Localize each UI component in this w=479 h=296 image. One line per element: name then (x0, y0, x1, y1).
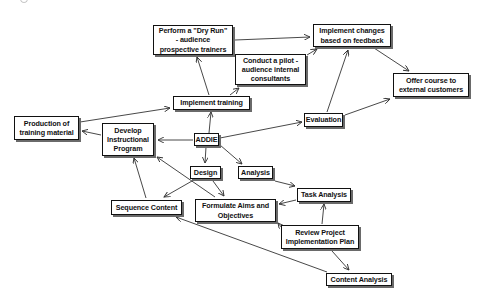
edge-design-to-sequence-content (164, 181, 192, 197)
node-addie[interactable]: ADDIE (194, 133, 219, 146)
edge-evaluation-to-implement-changes (327, 50, 348, 112)
edge-review-plan-to-content-analysis (332, 251, 349, 270)
node-label: Production of training material (19, 119, 73, 137)
edge-analysis-to-task-analysis (275, 181, 295, 186)
node-label: Analysis (241, 168, 270, 177)
node-label: Implement changes based on feedback (319, 26, 384, 44)
edge-addie-to-analysis (220, 145, 242, 164)
node-label: Perform a "Dry Run" - audience prospecti… (159, 26, 227, 54)
node-label: Formulate Aims and Objectives (202, 201, 269, 219)
node-label: Develop Instructional Program (107, 126, 149, 154)
node-label: Sequence Content (116, 203, 178, 212)
edge-implement-training-to-conduct-pilot (230, 88, 239, 95)
node-formulate-aims[interactable]: Formulate Aims and Objectives (195, 199, 276, 222)
node-evaluation[interactable]: Evaluation (304, 113, 343, 127)
node-implement-training[interactable]: Implement training (173, 96, 250, 110)
edge-addie-to-evaluation (220, 122, 302, 138)
node-label: Content Analysis (331, 275, 388, 284)
node-label: Implement training (180, 98, 243, 107)
node-label: Task Analysis (301, 190, 347, 199)
node-develop[interactable]: Develop Instructional Program (102, 123, 154, 156)
edge-task-analysis-to-formulate-aims (279, 200, 296, 204)
edge-perform-dry-run-to-implement-changes (235, 37, 310, 40)
node-label: Evaluation (306, 115, 341, 124)
node-label: Offer course to external customers (399, 76, 463, 94)
node-analysis[interactable]: Analysis (238, 166, 273, 179)
addie-diagram: ADDIE Perform a "Dry Run" - audience pro… (0, 0, 479, 296)
edge-design-to-formulate-aims (213, 181, 224, 196)
node-task-analysis[interactable]: Task Analysis (297, 188, 351, 202)
node-label: ADDIE (196, 135, 218, 144)
edge-addie-to-implement-training (209, 112, 211, 133)
node-perform-dry-run[interactable]: Perform a "Dry Run" - audience prospecti… (153, 25, 233, 55)
edge-review-plan-to-task-analysis (322, 204, 324, 224)
edge-addie-to-design (205, 147, 206, 163)
edges-layer (0, 0, 479, 296)
edge-develop-to-production (82, 131, 101, 135)
node-content-analysis[interactable]: Content Analysis (326, 273, 392, 286)
edge-evaluation-to-offer-course (345, 99, 390, 115)
node-label: Design (194, 168, 217, 177)
node-implement-changes[interactable]: Implement changes based on feedback (313, 24, 391, 47)
node-design[interactable]: Design (190, 166, 221, 179)
node-conduct-pilot[interactable]: Conduct a pilot - audience internal cons… (235, 54, 306, 85)
edge-conduct-pilot-to-implement-changes (307, 49, 317, 55)
node-production[interactable]: Production of training material (14, 116, 79, 140)
edge-production-to-implement-training (80, 108, 170, 122)
node-sequence-content[interactable]: Sequence Content (111, 200, 182, 215)
node-label: Conduct a pilot - audience internal cons… (242, 56, 299, 84)
node-review-plan[interactable]: Review Project Implementation Plan (281, 225, 359, 249)
edge-implement-changes-to-offer-course (374, 48, 409, 71)
node-offer-course[interactable]: Offer course to external customers (393, 73, 469, 97)
edge-sequence-content-to-develop (134, 158, 146, 198)
edge-implement-training-to-perform-dry-run (197, 57, 209, 95)
node-label: Review Project Implementation Plan (286, 228, 354, 246)
